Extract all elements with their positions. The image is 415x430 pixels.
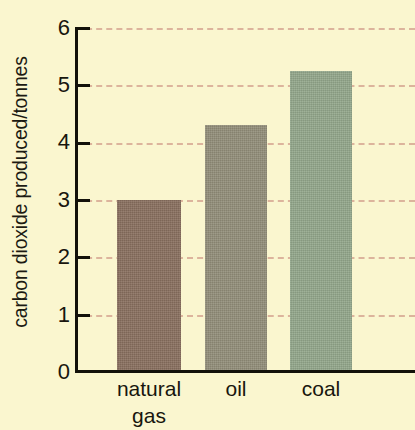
y-tick-label-0: 0 — [24, 361, 70, 383]
x-label-coal: coal — [278, 376, 364, 403]
y-tick-mark-4 — [75, 142, 90, 145]
y-tick-label-5: 5 — [24, 74, 70, 96]
gridline-5 — [76, 85, 415, 87]
plot-area — [76, 28, 415, 372]
y-axis-tick-labels: 6 5 4 3 2 1 0 — [14, 0, 70, 426]
y-tick-label-4: 4 — [24, 131, 70, 153]
bar-coal — [290, 71, 352, 372]
x-label-natural-gas: natural gas — [89, 376, 209, 430]
bar-natural-gas — [117, 200, 181, 372]
y-tick-label-1: 1 — [24, 304, 70, 326]
y-tick-label-2: 2 — [24, 246, 70, 268]
x-axis-category-labels: natural gas oil coal — [76, 376, 415, 426]
y-tick-mark-6 — [75, 27, 90, 30]
bar-oil — [205, 125, 267, 372]
x-axis-line — [75, 370, 415, 373]
y-tick-mark-5 — [75, 84, 90, 87]
y-tick-mark-1 — [75, 314, 90, 317]
y-tick-mark-3 — [75, 199, 90, 202]
y-tick-mark-2 — [75, 256, 90, 259]
y-tick-label-6: 6 — [24, 17, 70, 39]
x-label-oil: oil — [196, 376, 276, 403]
y-tick-label-3: 3 — [24, 189, 70, 211]
gridline-6 — [76, 28, 415, 30]
